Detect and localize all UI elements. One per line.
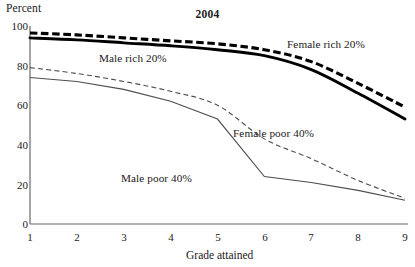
series-line-male-poor-40 [30, 77, 405, 200]
series-label-female-rich-20: Female rich 20% [287, 38, 365, 50]
axis-lines [30, 26, 408, 224]
x-axis-title: Grade attained [186, 249, 253, 261]
series-label-male-rich-20: Male rich 20% [99, 52, 167, 64]
series-paths [30, 33, 405, 200]
chart-container: Percent 2004 100 80 60 40 20 0 1 2 3 4 5… [0, 0, 415, 267]
series-label-male-poor-40: Male poor 40% [121, 172, 192, 184]
series-label-female-poor-40: Female poor 40% [233, 127, 314, 139]
